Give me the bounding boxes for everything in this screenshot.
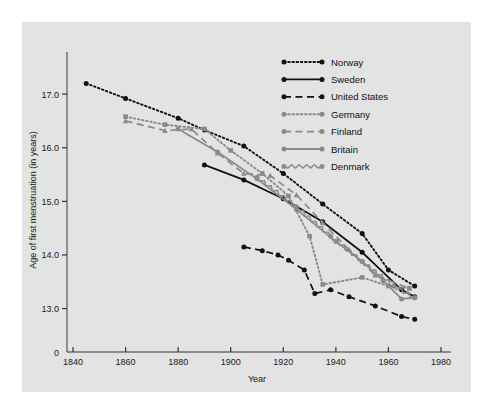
x-tick-label: 1880 — [168, 357, 188, 367]
data-point — [373, 303, 378, 308]
y-tick-label: 13.0 — [41, 304, 59, 314]
legend-marker-start — [282, 112, 287, 117]
data-point — [255, 175, 260, 180]
legend-label: Sweden — [331, 74, 365, 85]
x-tick-label: 1920 — [273, 357, 293, 367]
data-point — [412, 317, 417, 322]
data-point — [267, 173, 273, 178]
y-tick-label: 15.0 — [41, 197, 59, 207]
x-tick-label: 1860 — [116, 357, 136, 367]
y-tick-label: 17.0 — [41, 90, 59, 100]
y-axis-title: Age of first menstruation (in years) — [28, 131, 38, 269]
legend-item-united-states[interactable]: United States — [282, 91, 389, 102]
data-point — [163, 122, 168, 127]
data-point — [320, 202, 325, 207]
data-point — [123, 96, 128, 101]
legend-label: Norway — [331, 57, 363, 68]
data-point — [241, 177, 246, 182]
data-point — [286, 258, 291, 263]
data-point — [286, 194, 291, 199]
data-point — [312, 291, 317, 296]
data-point — [328, 287, 333, 292]
axes: 13.014.015.016.017.018401860188019001920… — [41, 52, 451, 367]
legend-marker-start — [282, 129, 287, 134]
data-point — [176, 116, 181, 121]
legend-marker-end — [320, 112, 325, 117]
x-tick-label: 1840 — [63, 357, 83, 367]
data-point — [202, 162, 207, 167]
data-point — [228, 148, 233, 153]
series-line — [126, 117, 410, 289]
origin-label: 0 — [54, 348, 59, 358]
data-point — [360, 231, 365, 236]
legend-label: Denmark — [331, 161, 370, 172]
data-point — [241, 144, 246, 149]
x-axis-title: Year — [248, 374, 266, 384]
axis-titles: YearAge of first menstruation (in years) — [28, 131, 266, 384]
legend-marker-end — [320, 77, 325, 82]
legend-marker-start — [282, 60, 287, 65]
legend-item-sweden[interactable]: Sweden — [282, 74, 366, 85]
data-point — [328, 234, 333, 239]
series-line — [126, 121, 410, 288]
legend-item-germany[interactable]: Germany — [282, 109, 371, 120]
data-point — [215, 150, 220, 155]
legend-label: Britain — [331, 144, 358, 155]
data-point — [360, 250, 365, 255]
y-tick-label: 14.0 — [41, 250, 59, 260]
chart-legend: NorwaySwedenUnited StatesGermanyFinlandB… — [282, 57, 389, 172]
data-point — [399, 296, 404, 301]
data-point — [320, 282, 325, 287]
legend-marker-end — [320, 164, 325, 169]
data-point — [386, 267, 391, 272]
legend-label: Germany — [331, 109, 370, 120]
data-point — [241, 244, 246, 249]
legend-item-finland[interactable]: Finland — [282, 126, 363, 137]
legend-marker-end — [320, 94, 325, 99]
data-point — [347, 294, 352, 299]
chart-figure: 13.014.015.016.017.018401860188019001920… — [22, 22, 471, 392]
data-point — [294, 192, 300, 197]
data-point — [84, 81, 89, 86]
legend-item-britain[interactable]: Britain — [282, 144, 358, 155]
x-tick-label: 1940 — [326, 357, 346, 367]
line-chart: 13.014.015.016.017.018401860188019001920… — [22, 22, 471, 392]
x-tick-label: 1980 — [431, 357, 451, 367]
data-point — [412, 284, 417, 289]
data-point — [399, 314, 404, 319]
data-point — [260, 248, 265, 253]
series-line — [178, 129, 415, 299]
legend-marker-start — [282, 147, 287, 152]
series-germany — [123, 114, 411, 290]
x-tick-label: 1900 — [221, 357, 241, 367]
data-point — [391, 284, 396, 289]
legend-marker-end — [320, 60, 325, 65]
legend-swatch — [284, 165, 322, 168]
y-tick-label: 16.0 — [41, 143, 59, 153]
legend-marker-end — [320, 129, 325, 134]
data-point — [412, 295, 417, 300]
data-point — [281, 171, 286, 176]
data-point — [360, 275, 365, 280]
data-point — [202, 127, 207, 132]
x-tick-label: 1960 — [378, 357, 398, 367]
legend-label: Finland — [331, 126, 362, 137]
legend-item-norway[interactable]: Norway — [282, 57, 364, 68]
data-point — [302, 267, 307, 272]
legend-marker-start — [282, 94, 287, 99]
legend-marker-start — [282, 164, 287, 169]
data-point — [294, 204, 299, 209]
legend-marker-end — [320, 147, 325, 152]
data-point — [307, 234, 312, 239]
legend-label: United States — [331, 91, 388, 102]
series-sweden — [202, 162, 417, 299]
data-point — [176, 126, 181, 131]
data-point — [276, 252, 281, 257]
data-point — [360, 259, 365, 264]
legend-marker-start — [282, 77, 287, 82]
legend-item-denmark[interactable]: Denmark — [282, 161, 370, 172]
